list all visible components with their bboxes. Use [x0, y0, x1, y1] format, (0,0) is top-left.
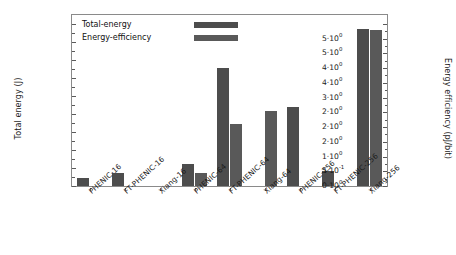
- legend-item-total-energy: Total-energy: [82, 18, 222, 31]
- energy-bar-chart-figure: Total energy (J) Energy efficiency (pJ/b…: [0, 0, 456, 255]
- y-tick-right: [383, 127, 387, 128]
- y-minor-tick-left: [72, 51, 75, 52]
- y-minor-tick-left: [72, 105, 75, 106]
- y-minor-tick-left: [72, 69, 75, 70]
- y-minor-tick-right: [385, 149, 388, 150]
- y-minor-tick-right: [385, 46, 388, 47]
- bar-total-energy: [77, 178, 89, 186]
- y-minor-tick-right: [385, 61, 388, 62]
- y-tick-label-right: 2·100: [322, 138, 342, 146]
- y-tick-left: [72, 96, 76, 97]
- y-tick-label-right: 5·100: [322, 35, 342, 43]
- y-minor-tick-left: [72, 33, 75, 34]
- y-minor-tick-left: [72, 141, 75, 142]
- y-minor-tick-left: [72, 123, 75, 124]
- y-tick-left: [72, 114, 76, 115]
- y-tick-right: [383, 83, 387, 84]
- y-tick-right: [383, 142, 387, 143]
- legend-label-energy-efficiency: Energy-efficiency: [82, 31, 151, 44]
- y-tick-right: [383, 24, 387, 25]
- y-tick-right: [383, 112, 387, 113]
- y-axis-right-title: Energy efficiency (pJ/bit): [443, 34, 452, 184]
- y-tick-label-right: 4·100: [322, 79, 342, 87]
- y-minor-tick-left: [72, 159, 75, 160]
- y-tick-left: [72, 132, 76, 133]
- y-minor-tick-right: [385, 31, 388, 32]
- y-minor-tick-right: [385, 105, 388, 106]
- legend-label-total-energy: Total-energy: [82, 18, 131, 31]
- y-minor-tick-left: [72, 87, 75, 88]
- y-minor-tick-right: [385, 120, 388, 121]
- y-tick-left: [72, 150, 76, 151]
- y-tick-left: [72, 168, 76, 169]
- legend-swatch-energy-efficiency: [194, 35, 238, 41]
- y-tick-left: [72, 78, 76, 79]
- legend-item-energy-efficiency: Energy-efficiency: [82, 31, 222, 44]
- y-axis-left-title: Total energy (J): [14, 49, 23, 169]
- chart-legend: Total-energy Energy-efficiency: [82, 18, 222, 44]
- y-minor-tick-right: [385, 164, 388, 165]
- y-tick-label-right: 2·100: [322, 123, 342, 131]
- y-minor-tick-left: [72, 177, 75, 178]
- y-tick-label-right: 2·100: [322, 108, 342, 116]
- y-tick-label-right: 3·100: [322, 94, 342, 102]
- y-tick-right: [383, 98, 387, 99]
- y-tick-left: [72, 186, 76, 187]
- y-tick-right: [383, 39, 387, 40]
- y-minor-tick-right: [385, 134, 388, 135]
- y-tick-right: [383, 53, 387, 54]
- y-tick-label-right: 1·100: [322, 153, 342, 161]
- y-tick-label-right: 5·100: [322, 49, 342, 57]
- legend-swatch-total-energy: [194, 22, 238, 28]
- y-tick-label-right: 4·100: [322, 64, 342, 72]
- y-tick-left: [72, 24, 76, 25]
- y-tick-right: [383, 68, 387, 69]
- y-minor-tick-right: [385, 90, 388, 91]
- y-tick-right: [383, 157, 387, 158]
- y-tick-left: [72, 60, 76, 61]
- bar-energy-efficiency: [265, 111, 277, 186]
- y-minor-tick-right: [385, 75, 388, 76]
- y-tick-left: [72, 42, 76, 43]
